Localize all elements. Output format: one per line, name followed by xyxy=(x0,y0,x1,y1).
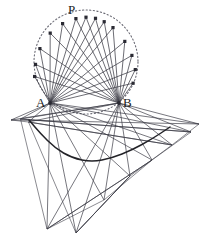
point-marker-p7 xyxy=(94,17,97,20)
ray-b-to-p10 xyxy=(119,41,125,103)
rays-from-anchors-group xyxy=(35,17,136,103)
point-label-a: A xyxy=(36,96,45,109)
point-marker-p11 xyxy=(130,54,133,57)
lower-skip-chord-6 xyxy=(130,145,172,176)
point-label-p: P xyxy=(68,3,75,16)
lower-quadrilateral-fan-group xyxy=(11,103,199,233)
point-marker-p12 xyxy=(134,68,137,71)
ray-b-to-p3 xyxy=(40,49,119,103)
lower-ray-a-5 xyxy=(50,103,104,200)
lower-skip-chord-2 xyxy=(29,122,77,233)
point-marker-p13 xyxy=(132,82,135,85)
geometry-canvas xyxy=(0,0,215,251)
point-marker-p2 xyxy=(34,63,37,66)
point-marker-p4 xyxy=(49,32,52,35)
lower-ray-a-6 xyxy=(50,103,130,176)
lower-skip-chord-7 xyxy=(152,132,191,160)
point-marker-p3 xyxy=(38,47,41,50)
point-marker-p5 xyxy=(61,22,64,25)
lower-chord-8 xyxy=(29,122,173,145)
geometry-figure: P A B xyxy=(0,0,215,251)
ray-b-to-p8 xyxy=(104,22,119,103)
ray-a-to-p9 xyxy=(50,28,113,103)
point-marker-p10 xyxy=(123,40,126,43)
point-label-b: B xyxy=(123,96,132,109)
point-marker-p1 xyxy=(33,75,36,78)
point-marker-p9 xyxy=(111,26,114,29)
lower-ray-b-7 xyxy=(119,103,152,160)
lower-skip-chord-5 xyxy=(104,160,152,200)
point-marker-p xyxy=(84,16,87,19)
lower-ray-b-5 xyxy=(104,103,119,200)
point-marker-p6 xyxy=(74,17,77,20)
lower-chord-7 xyxy=(47,160,152,229)
anchor-marker-a xyxy=(48,101,52,105)
ray-a-to-p8 xyxy=(50,22,104,103)
anchor-marker-b xyxy=(117,101,121,105)
point-marker-p8 xyxy=(103,20,106,23)
ray-a-to-p xyxy=(50,17,86,103)
lower-skip-chord-8 xyxy=(172,124,199,145)
